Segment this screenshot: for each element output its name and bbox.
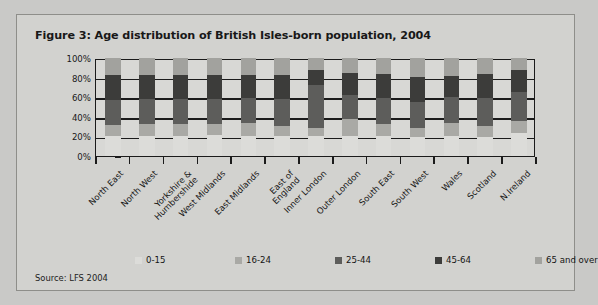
bar-segment[interactable]: [376, 58, 392, 74]
stacked-bar[interactable]: [410, 60, 426, 156]
bar-segment[interactable]: [207, 75, 223, 100]
bar-segment[interactable]: [511, 92, 527, 120]
stacked-bar[interactable]: [444, 60, 460, 156]
bar-segment[interactable]: [410, 58, 426, 77]
bar-segment[interactable]: [342, 119, 358, 137]
bar-segment[interactable]: [241, 75, 257, 99]
legend-swatch-icon: [235, 257, 242, 264]
bar-segment[interactable]: [274, 75, 290, 100]
bar-slot: [401, 60, 435, 156]
bar-segment[interactable]: [139, 75, 155, 100]
bar-segment[interactable]: [308, 128, 324, 137]
bar-segment[interactable]: [105, 100, 121, 125]
y-axis-tick-label: 80%: [43, 75, 91, 84]
bar-segment[interactable]: [444, 76, 460, 98]
bar-segment[interactable]: [342, 73, 358, 96]
bar-segment[interactable]: [410, 137, 426, 156]
bar-segment[interactable]: [342, 58, 358, 73]
bar-segment[interactable]: [376, 74, 392, 99]
bar-segment[interactable]: [274, 126, 290, 137]
stacked-bar[interactable]: [308, 60, 324, 156]
y-axis-tick-label: 20%: [43, 133, 91, 142]
bar-segment[interactable]: [139, 58, 155, 75]
legend-label: 65 and over: [546, 255, 598, 266]
bar-segment[interactable]: [511, 121, 527, 134]
stacked-bar[interactable]: [342, 60, 358, 156]
bar-segment[interactable]: [173, 75, 189, 100]
bar-segment[interactable]: [410, 102, 426, 127]
bar-slot: [299, 60, 333, 156]
bar-segment[interactable]: [105, 75, 121, 100]
legend-label: 25-44: [346, 255, 371, 266]
stacked-bar[interactable]: [477, 60, 493, 156]
bar-segment[interactable]: [308, 70, 324, 86]
stacked-bar[interactable]: [241, 60, 257, 156]
plot-area: [95, 59, 535, 157]
stacked-bar[interactable]: [105, 60, 121, 156]
bar-segment[interactable]: [342, 95, 358, 119]
bar-segment[interactable]: [105, 58, 121, 75]
x-axis-tick-mark: [433, 157, 435, 164]
bar-segment[interactable]: [410, 128, 426, 138]
bar-segment[interactable]: [444, 136, 460, 156]
bar-segment[interactable]: [376, 124, 392, 137]
bar-segment[interactable]: [308, 85, 324, 127]
x-axis-tick-mark: [535, 157, 537, 164]
bar-segment[interactable]: [511, 133, 527, 156]
stacked-bar[interactable]: [139, 60, 155, 156]
bar-segment[interactable]: [477, 126, 493, 138]
bar-segment[interactable]: [207, 99, 223, 124]
bar-segment[interactable]: [241, 98, 257, 123]
bar-segment[interactable]: [105, 125, 121, 137]
chart-plot-wrapper: 100%80%60%40%20%0% North EastNorth WestY…: [17, 15, 576, 292]
bar-slot: [164, 60, 198, 156]
bar-segment[interactable]: [139, 99, 155, 124]
x-axis-tick-mark: [264, 157, 266, 164]
bar-segment[interactable]: [241, 58, 257, 75]
bar-segment[interactable]: [274, 58, 290, 75]
x-axis-labels: North EastNorth WestYorkshire & Humbersh…: [95, 165, 545, 245]
legend-swatch-icon: [435, 257, 442, 264]
bar-segment[interactable]: [511, 70, 527, 93]
legend-swatch-icon: [335, 257, 342, 264]
bar-segment[interactable]: [173, 136, 189, 156]
bar-segment[interactable]: [511, 58, 527, 70]
bar-segment[interactable]: [105, 136, 121, 156]
bar-segment[interactable]: [274, 99, 290, 125]
bar-segment[interactable]: [376, 136, 392, 156]
stacked-bar[interactable]: [376, 60, 392, 156]
bar-segment[interactable]: [308, 136, 324, 156]
figure-card: Figure 3: Age distribution of British Is…: [16, 14, 575, 291]
bar-segment[interactable]: [139, 136, 155, 156]
stacked-bar[interactable]: [173, 60, 189, 156]
bar-segment[interactable]: [410, 77, 426, 102]
bar-segment[interactable]: [477, 58, 493, 74]
bar-segment[interactable]: [274, 136, 290, 156]
bar-segment[interactable]: [207, 135, 223, 156]
stacked-bar[interactable]: [511, 60, 527, 156]
x-axis-tick-mark: [197, 157, 199, 164]
bar-segment[interactable]: [477, 137, 493, 156]
legend-label: 16-24: [246, 255, 271, 266]
bar-segment[interactable]: [444, 123, 460, 137]
bar-segment[interactable]: [173, 58, 189, 75]
x-axis-tick-mark: [332, 157, 334, 164]
bar-segment[interactable]: [173, 124, 189, 137]
bar-segment[interactable]: [444, 58, 460, 76]
bar-segment[interactable]: [308, 58, 324, 70]
stacked-bar[interactable]: [274, 60, 290, 156]
bar-segment[interactable]: [342, 136, 358, 156]
x-axis-ticks: [95, 157, 535, 165]
bar-segment[interactable]: [207, 58, 223, 75]
bar-segment[interactable]: [241, 123, 257, 137]
bar-segment[interactable]: [444, 97, 460, 122]
bar-segment[interactable]: [376, 98, 392, 123]
bar-segment[interactable]: [241, 136, 257, 156]
bar-segment[interactable]: [139, 124, 155, 137]
bar-segment[interactable]: [477, 74, 493, 99]
bar-segment[interactable]: [173, 99, 189, 124]
bar-segment[interactable]: [207, 124, 223, 136]
stacked-bar[interactable]: [207, 60, 223, 156]
bar-slot: [130, 60, 164, 156]
bar-segment[interactable]: [477, 98, 493, 125]
